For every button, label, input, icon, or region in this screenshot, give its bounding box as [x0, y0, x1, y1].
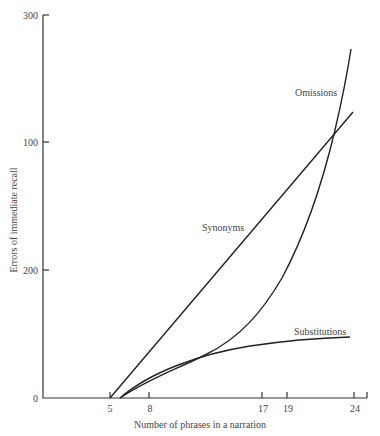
y-tick-label-100: 100 [23, 137, 38, 148]
y-tick-label-0: 0 [33, 393, 38, 404]
label-substitutions: Substitutions [294, 326, 346, 337]
line-chart: 300 100 200 0 5 8 17 19 24 Number of phr… [0, 0, 380, 436]
x-tick-label-19: 19 [283, 403, 293, 414]
x-tick-label-24: 24 [350, 403, 360, 414]
series-synonyms [110, 112, 353, 398]
y-tick-label-300: 300 [23, 10, 38, 21]
label-synonyms: Synonyms [202, 222, 244, 233]
y-axis-title: Errors of immediate recall [8, 167, 19, 272]
y-tick-label-200: 200 [23, 265, 38, 276]
axes [43, 15, 367, 398]
x-tick-label-17: 17 [258, 403, 268, 414]
label-omissions: Omissions [295, 87, 337, 98]
x-axis-title: Number of phrases in a narration [134, 419, 266, 430]
x-tick-label-5: 5 [108, 403, 113, 414]
x-tick-label-8: 8 [148, 403, 153, 414]
